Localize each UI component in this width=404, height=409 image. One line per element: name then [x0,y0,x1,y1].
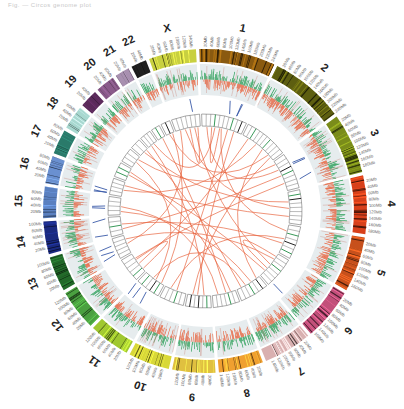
blue-mark [237,104,242,116]
tick-label: 40Mb [31,202,42,207]
tick-label: 60Mb [215,36,221,48]
tick-label: 80Mb [31,227,43,233]
chromosome-label-17: 17 [28,123,44,139]
blue-mark [101,252,113,256]
chromosome-label-8: 8 [243,387,252,400]
box-1 [202,114,247,134]
tick-label: 80Mb [187,373,193,385]
chromosome-label-22: 22 [120,32,136,48]
blue-mark [99,246,111,251]
blue-mark [95,235,108,237]
tick-label: 20Mb [157,368,165,380]
tick-label: 80Mb [221,37,227,49]
link-arc [190,127,200,163]
link-arcs [121,127,289,295]
chromosome-label-3: 3 [368,127,381,138]
tick-label: 20Mb [35,246,47,253]
tick-label: 40Mb [200,374,205,385]
blue-mark [94,191,107,192]
chromosome-label-12: 12 [49,317,66,334]
box-X [172,114,201,131]
link-arc [210,127,219,163]
chromosome-label-11: 11 [86,353,102,370]
tick-label: 100Mb [29,221,43,227]
tick-label: 20Mb [149,44,157,56]
tick-label: 180Mb [368,228,382,235]
chromosome-label-16: 16 [17,156,32,171]
tick-label: 60Mb [368,189,380,195]
chromosome-label-7: 7 [295,365,306,378]
tick-label: 160Mb [368,222,382,228]
tick-label: 20Mb [31,209,42,214]
tick-label: 20Mb [203,36,208,47]
blue-mark [274,284,283,293]
chromosome-label-2: 2 [319,61,331,74]
link-arc [145,153,289,202]
box-10 [160,286,186,305]
blue-mark [128,283,136,294]
chromosome-label-10: 10 [132,379,148,395]
blue-mark [133,287,141,297]
tick-label: 120Mb [225,373,232,387]
chromosome-ideogram-ring [43,49,367,373]
tick-label: 60Mb [31,196,42,202]
link-arc [193,158,270,294]
box-8 [212,290,239,307]
chromosome-label-14: 14 [13,234,27,249]
blue-mark [92,208,105,209]
chromosome-label-15: 15 [12,195,25,208]
chromosome-label-13: 13 [25,276,41,292]
chromosome-label-18: 18 [44,94,61,111]
chromosome-label-5: 5 [375,268,388,278]
tick-label: 40Mb [367,183,379,190]
chromosome-label-20: 20 [81,55,98,72]
tick-label: 140Mb [219,374,225,388]
copy-number-track [58,64,352,358]
tick-label: 120Mb [369,209,383,214]
chromosome-label-9: 9 [188,391,195,403]
tick-label: 80Mb [31,189,43,195]
tick-label: 40Mb [209,36,214,47]
chromosome-label-4: 4 [386,200,398,207]
tick-label: 100Mb [369,203,383,208]
blue-mark [140,292,146,304]
tick-label: 140Mb [188,35,194,49]
tick-label: 20Mb [34,172,46,179]
tick-label: 140Mb [369,216,383,222]
blue-mark [190,99,193,112]
tick-label: 100Mb [180,373,187,387]
chromosome-label-6: 6 [342,325,355,337]
blue-mark [93,219,106,223]
box-ring [108,114,302,308]
blue-mark [104,255,115,262]
box-16 [109,178,125,196]
tick-label: 20Mb [207,375,212,386]
circos-plot: 20Mb40Mb60Mb80Mb100Mb120Mb140Mb160Mb180M… [0,0,404,409]
box-3 [274,154,299,190]
tick-label: 60Mb [193,374,199,385]
chromosome-label-19: 19 [62,72,79,89]
blue-mark [230,101,231,114]
blue-mark [300,172,311,179]
chromosome-label-21: 21 [101,42,118,59]
blue-mark [95,186,107,190]
chromosome-label-1: 1 [239,21,247,34]
chromosome-label-X: X [162,21,172,34]
tick-label: 80Mb [368,196,379,202]
